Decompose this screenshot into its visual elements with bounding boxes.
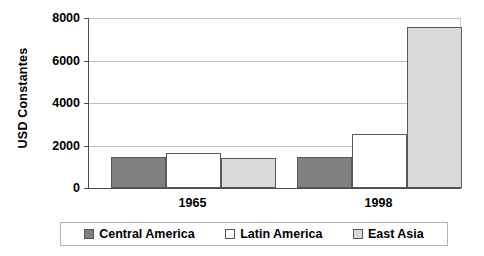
y-axis-tick-label: 0 <box>73 181 80 195</box>
legend-label: East Asia <box>368 227 424 241</box>
y-axis-tick-label: 6000 <box>52 54 80 68</box>
legend-label: Central America <box>99 227 194 241</box>
bar-latin-america-1998 <box>352 134 407 188</box>
bar-central-america-1998 <box>297 157 352 188</box>
legend-item-latin-america[interactable]: Latin America <box>225 227 322 241</box>
bar-central-america-1965 <box>111 157 166 188</box>
bar-latin-america-1965 <box>166 153 221 188</box>
legend-swatch-icon <box>225 229 235 239</box>
y-axis-tick <box>84 61 89 62</box>
legend-item-east-asia[interactable]: East Asia <box>353 227 424 241</box>
gridline <box>89 61 461 62</box>
legend-item-central-america[interactable]: Central America <box>84 227 194 241</box>
bar-chart: USD Constantes 02000400060008000 1965199… <box>0 0 484 256</box>
y-axis-tick-label: 8000 <box>52 11 80 25</box>
plot-area: 02000400060008000 <box>88 18 461 189</box>
y-axis-tick-label: 2000 <box>52 139 80 153</box>
y-axis-tick-label: 4000 <box>52 96 80 110</box>
y-axis-tick <box>84 18 89 19</box>
gridline <box>89 103 461 104</box>
gridline <box>89 18 461 19</box>
x-axis-label-1998: 1998 <box>365 196 393 210</box>
chart-legend: Central AmericaLatin AmericaEast Asia <box>60 222 448 246</box>
bar-east-asia-1965 <box>221 158 276 188</box>
legend-swatch-icon <box>353 229 363 239</box>
bar-east-asia-1998 <box>407 27 462 188</box>
y-axis-tick <box>84 188 89 189</box>
y-axis-title: USD Constantes <box>12 0 34 198</box>
y-axis-tick <box>84 103 89 104</box>
x-axis-label-1965: 1965 <box>179 196 207 210</box>
legend-swatch-icon <box>84 229 94 239</box>
legend-label: Latin America <box>240 227 322 241</box>
y-axis-tick <box>84 146 89 147</box>
